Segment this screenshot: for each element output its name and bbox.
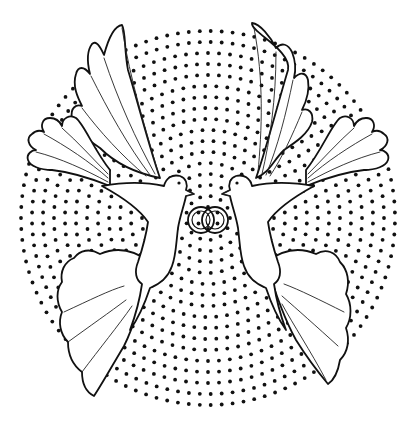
doves-wedding-rings-illustration (0, 0, 416, 429)
right-upper-wing (252, 23, 312, 178)
right-tail-fan (306, 116, 388, 186)
